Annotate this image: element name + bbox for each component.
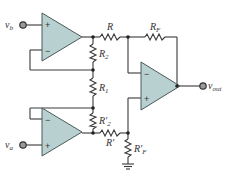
opamp-3-plus: + (144, 94, 149, 104)
label-va: va (5, 139, 13, 152)
opamp-2: − + (42, 108, 82, 156)
opamp-3: − + (141, 62, 180, 110)
resistor-R1 (90, 78, 96, 96)
resistor-R2-prime (90, 113, 96, 129)
opamp-2-minus: − (45, 115, 50, 125)
resistor-RF-prime (125, 139, 131, 157)
label-R: R (106, 21, 113, 32)
resistor-R (100, 34, 120, 40)
resistor-R2 (90, 44, 96, 62)
opamp-2-plus: + (45, 141, 50, 151)
label-R1: R1 (98, 82, 109, 95)
label-vb: vb (5, 19, 13, 32)
opamp-1-minus: − (45, 46, 50, 56)
opamp-1-plus: + (45, 20, 50, 30)
circuit-schematic: + − − + − + vb va vout R RF R2 R1 R′2 R′… (0, 0, 229, 183)
label-R2-prime: R′2 (98, 115, 111, 128)
label-R-prime: R′ (105, 137, 115, 148)
opamp-3-minus: − (144, 69, 149, 79)
ground-icon (122, 164, 134, 169)
label-R2: R2 (98, 48, 109, 61)
label-vout: vout (208, 80, 222, 93)
input-terminal-va (20, 142, 26, 148)
output-terminal-vout (200, 83, 206, 89)
resistor-RF (145, 34, 165, 40)
opamp-1: + − (42, 13, 82, 61)
label-RF: RF (149, 21, 161, 34)
label-RF-prime: R′F (133, 143, 147, 156)
input-terminal-vb (20, 22, 26, 28)
resistor-R-prime (100, 130, 120, 136)
